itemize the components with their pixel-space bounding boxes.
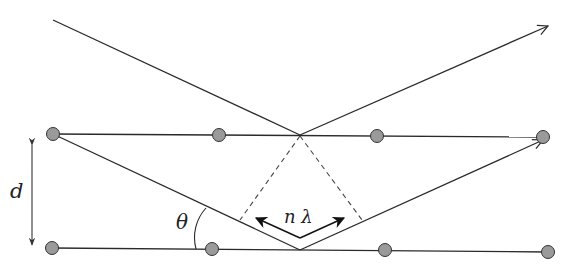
reflected-ray-upper xyxy=(300,26,548,135)
atoms xyxy=(46,128,555,259)
theta-label: θ xyxy=(176,212,188,232)
reflected-ray-lower xyxy=(300,140,543,250)
atom xyxy=(379,244,392,257)
atom xyxy=(46,242,59,255)
atom xyxy=(213,129,226,142)
atom xyxy=(47,128,60,141)
atom xyxy=(371,130,384,143)
theta-arc xyxy=(195,208,206,249)
n-lambda-label: n λ xyxy=(284,208,313,226)
bragg-diagram: d θ n λ xyxy=(0,0,573,273)
d-label: d xyxy=(10,181,23,202)
incident-ray-upper xyxy=(53,20,300,135)
atom xyxy=(206,243,219,256)
atom xyxy=(542,246,555,259)
atom xyxy=(537,131,550,144)
diagram-graphics xyxy=(0,0,573,273)
